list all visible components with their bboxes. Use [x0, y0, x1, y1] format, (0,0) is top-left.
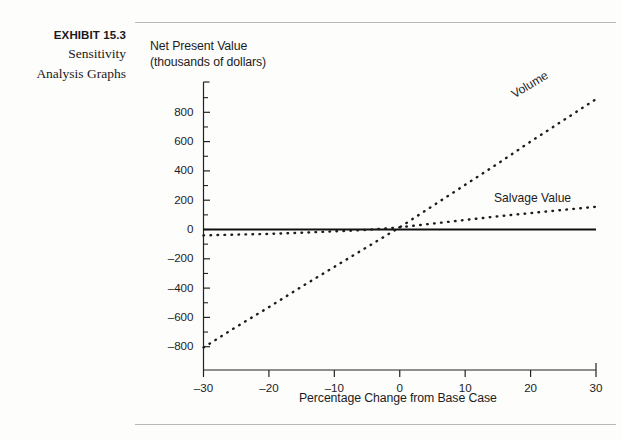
y-tick-label: 200: [150, 193, 194, 206]
plot-area: [0, 0, 621, 440]
y-tick-label: –400: [150, 281, 194, 294]
x-tick-label: 30: [576, 381, 616, 394]
y-tick-label: –600: [150, 310, 194, 323]
x-tick-label: 0: [380, 381, 420, 394]
y-tick-label: 400: [150, 163, 194, 176]
x-tick-label: –30: [184, 381, 224, 394]
y-tick-label: 800: [150, 105, 194, 118]
exhibit-page: EXHIBIT 15.3 Sensitivity Analysis Graphs…: [0, 0, 621, 440]
sensitivity-analysis-chart: Net Present Value (thousands of dollars)…: [0, 0, 621, 440]
x-tick-label: 10: [445, 381, 485, 394]
y-tick-label: 600: [150, 134, 194, 147]
x-tick-label: 20: [511, 381, 551, 394]
series-line-volume: [204, 99, 597, 347]
x-tick-label: –20: [249, 381, 289, 394]
x-tick-label: –10: [314, 381, 354, 394]
y-tick-label: 0: [150, 222, 194, 235]
series-line-salvage-value: [204, 207, 597, 236]
y-tick-label: –200: [150, 251, 194, 264]
y-tick-label: –800: [150, 339, 194, 352]
